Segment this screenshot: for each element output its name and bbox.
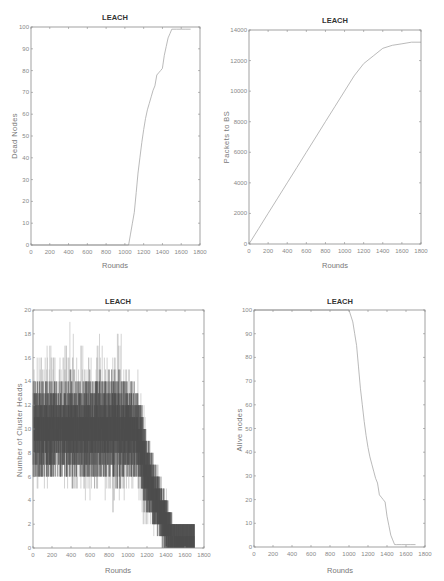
y-tick-label: 6 — [28, 474, 32, 480]
plot-area: 0200400600800100012001400160018000246810… — [24, 307, 211, 558]
x-axis-label: Rounds — [102, 261, 128, 270]
x-tick-label: 800 — [104, 552, 115, 558]
y-axis-label: Dead Nodes — [10, 113, 19, 159]
y-tick-label: 12 — [24, 402, 31, 408]
y-tick-label: 20 — [24, 307, 31, 313]
y-tick-label: 90 — [245, 331, 252, 337]
chart-alive-nodes: LEACH 0200400600800100012001400160018000… — [222, 290, 444, 581]
x-tick-label: 1600 — [178, 552, 192, 558]
x-tick-label: 1600 — [399, 551, 413, 557]
chart-title: LEACH — [322, 16, 348, 25]
y-tick-label: 100 — [19, 24, 30, 30]
x-axis-label: Rounds — [105, 566, 131, 575]
chart-title: LEACH — [327, 297, 353, 306]
x-tick-label: 0 — [31, 552, 35, 558]
y-axis-label: Packets to BS — [222, 111, 231, 163]
y-tick-label: 80 — [245, 354, 252, 360]
chart-title: LEACH — [105, 297, 131, 306]
y-tick-label: 0 — [26, 242, 30, 248]
y-tick-label: 16 — [24, 355, 31, 361]
plot-area: 0200400600800100012001400160018000102030… — [242, 307, 432, 557]
x-tick-label: 1800 — [418, 551, 432, 557]
y-axis-label: Alive nodes — [235, 408, 244, 451]
y-tick-label: 30 — [245, 473, 252, 479]
x-tick-label: 1400 — [156, 249, 170, 255]
y-tick-label: 20 — [22, 198, 29, 204]
y-tick-label: 10000 — [230, 88, 247, 94]
y-tick-label: 70 — [245, 378, 252, 384]
y-tick-label: 14000 — [230, 27, 247, 33]
y-tick-label: 6000 — [234, 149, 248, 155]
y-tick-label: 4000 — [234, 180, 248, 186]
y-tick-label: 40 — [245, 449, 252, 455]
y-tick-label: 10 — [22, 220, 29, 226]
x-tick-label: 1800 — [197, 552, 211, 558]
chart-dead-nodes-svg: LEACH 0200400600800100012001400160018000… — [0, 0, 222, 290]
y-tick-label: 60 — [22, 111, 29, 117]
x-tick-label: 1200 — [137, 249, 151, 255]
x-tick-label: 0 — [252, 551, 256, 557]
x-tick-label: 200 — [47, 552, 58, 558]
x-tick-label: 1200 — [140, 552, 154, 558]
y-tick-label: 14 — [24, 378, 31, 384]
x-tick-label: 1000 — [118, 249, 132, 255]
y-tick-label: 80 — [22, 68, 29, 74]
y-tick-label: 2 — [28, 521, 32, 527]
chart-cluster-heads: LEACH 0200400600800100012001400160018000… — [0, 290, 222, 581]
x-tick-label: 1400 — [380, 551, 394, 557]
x-axis-label: Rounds — [327, 566, 353, 575]
x-tick-label: 0 — [29, 249, 33, 255]
x-axis-label: Rounds — [322, 261, 348, 270]
chart-title: LEACH — [102, 13, 128, 22]
y-tick-label: 100 — [242, 307, 253, 313]
plot-area: 0200400600800100012001400160018000200040… — [230, 27, 428, 254]
y-tick-label: 40 — [22, 155, 29, 161]
y-tick-label: 90 — [22, 46, 29, 52]
y-tick-label: 50 — [245, 426, 252, 432]
chart-packets-to-bs: LEACH 0200400600800100012001400160018000… — [222, 0, 444, 290]
x-tick-label: 400 — [282, 248, 293, 254]
y-tick-label: 10 — [24, 426, 31, 432]
x-tick-label: 1000 — [338, 248, 352, 254]
x-tick-label: 600 — [82, 249, 93, 255]
y-tick-label: 0 — [249, 544, 253, 550]
x-tick-label: 800 — [101, 249, 112, 255]
x-tick-label: 1600 — [175, 249, 189, 255]
y-tick-label: 0 — [244, 241, 248, 247]
x-tick-label: 800 — [320, 248, 331, 254]
x-tick-label: 1000 — [121, 552, 135, 558]
x-tick-label: 400 — [66, 552, 77, 558]
x-tick-label: 400 — [64, 249, 75, 255]
y-tick-label: 50 — [22, 133, 29, 139]
y-tick-label: 20 — [245, 497, 252, 503]
x-tick-label: 1800 — [414, 248, 428, 254]
chart-dead-nodes: LEACH 0200400600800100012001400160018000… — [0, 0, 222, 290]
x-tick-label: 600 — [301, 248, 312, 254]
y-tick-label: 2000 — [234, 210, 248, 216]
chart-alive-nodes-svg: LEACH 0200400600800100012001400160018000… — [222, 290, 444, 581]
x-tick-label: 600 — [85, 552, 96, 558]
y-tick-label: 10 — [245, 520, 252, 526]
chart-packets-svg: LEACH 0200400600800100012001400160018000… — [222, 0, 444, 290]
y-tick-label: 8 — [28, 450, 32, 456]
y-tick-label: 60 — [245, 402, 252, 408]
x-tick-label: 400 — [287, 551, 298, 557]
y-tick-label: 18 — [24, 331, 31, 337]
plot-area: 0200400600800100012001400160018000102030… — [19, 24, 207, 255]
x-tick-label: 1600 — [395, 248, 409, 254]
y-tick-label: 12000 — [230, 58, 247, 64]
y-tick-label: 0 — [28, 545, 32, 551]
x-tick-label: 1200 — [357, 248, 371, 254]
x-tick-label: 1800 — [193, 249, 207, 255]
x-tick-label: 800 — [325, 551, 336, 557]
x-tick-label: 1400 — [376, 248, 390, 254]
chart-cluster-heads-svg: LEACH 0200400600800100012001400160018000… — [0, 290, 222, 581]
y-axis-label: Number of Cluster Heads — [15, 383, 24, 477]
x-tick-label: 200 — [263, 248, 274, 254]
x-tick-label: 1400 — [159, 552, 173, 558]
x-tick-label: 1200 — [361, 551, 375, 557]
x-tick-label: 200 — [45, 249, 56, 255]
y-tick-label: 70 — [22, 89, 29, 95]
x-tick-label: 1000 — [342, 551, 356, 557]
x-tick-label: 0 — [247, 248, 251, 254]
